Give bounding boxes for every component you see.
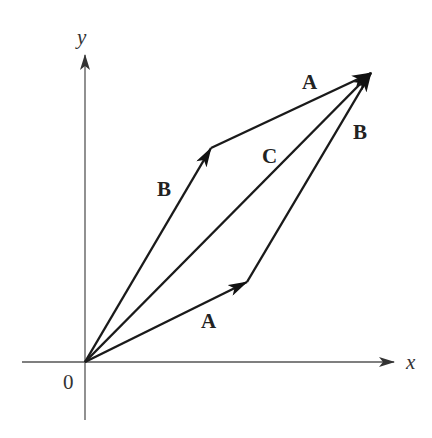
vector-b-left-label: B: [157, 177, 171, 201]
vector-b-right-label: B: [353, 120, 367, 144]
vector-a-upper: A: [211, 70, 371, 148]
vector-b-right: B: [247, 73, 371, 282]
axes: x y 0: [22, 25, 416, 420]
y-axis-label: y: [75, 25, 87, 49]
vector-c-label: C: [262, 144, 277, 168]
vector-a-upper-label: A: [302, 70, 318, 94]
x-axis-label: x: [405, 350, 416, 374]
vector-diagram: x y 0 A B B A C: [0, 0, 432, 438]
origin-label: 0: [63, 370, 74, 394]
vector-c-resultant: C: [85, 73, 371, 362]
vector-a-lower-label: A: [201, 309, 217, 333]
